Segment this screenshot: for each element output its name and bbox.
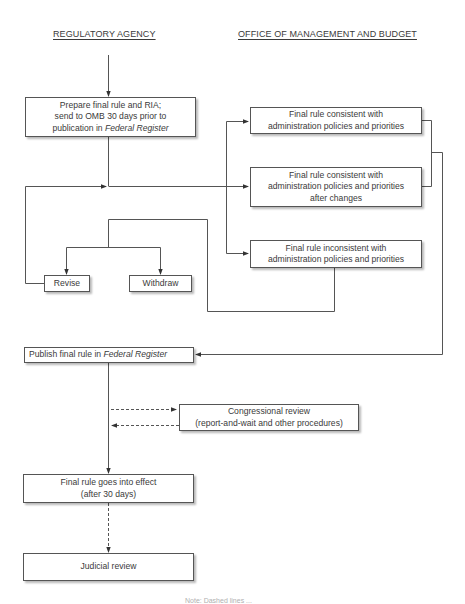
publish-italic: Federal Register xyxy=(104,349,168,359)
prepare-line-3: publication in Federal Register xyxy=(52,123,168,135)
consistent-after-line-1: Final rule consistent with xyxy=(289,170,383,182)
header-regulatory-agency: REGULATORY AGENCY xyxy=(53,29,156,39)
congressional-line-1: Congressional review xyxy=(228,406,310,418)
prepare-line-1: Prepare final rule and RIA; xyxy=(60,100,161,112)
box-revise: Revise xyxy=(44,275,90,292)
consistent-line-2: administration policies and priorities xyxy=(268,121,404,133)
effect-line-1: Final rule goes into effect xyxy=(61,477,157,489)
prepare-line-3-prefix: publication in xyxy=(52,123,105,133)
consistent-after-line-3: after changes xyxy=(310,193,362,205)
consistent-line-1: Final rule consistent with xyxy=(289,109,383,121)
revise-label: Revise xyxy=(54,278,80,290)
congressional-line-2: (report-and-wait and other procedures) xyxy=(195,418,343,430)
publish-label: Publish final rule in Federal Register xyxy=(29,349,167,361)
header-omb: OFFICE OF MANAGEMENT AND BUDGET xyxy=(238,29,417,39)
publish-prefix: Publish final rule in xyxy=(29,349,104,359)
prepare-line-3-italic: Federal Register xyxy=(105,123,169,133)
box-inconsistent: Final rule inconsistent with administrat… xyxy=(250,240,422,268)
inconsistent-line-2: administration policies and priorities xyxy=(268,254,404,266)
box-withdraw: Withdraw xyxy=(129,275,192,292)
effect-line-2: (after 30 days) xyxy=(81,489,136,501)
prepare-line-2: send to OMB 30 days prior to xyxy=(55,111,167,123)
box-congressional-review: Congressional review (report-and-wait an… xyxy=(179,404,359,431)
box-consistent: Final rule consistent with administratio… xyxy=(250,107,422,134)
inconsistent-line-1: Final rule inconsistent with xyxy=(286,243,387,255)
consistent-after-line-2: administration policies and priorities xyxy=(268,181,404,193)
box-final-rule-effect: Final rule goes into effect (after 30 da… xyxy=(23,474,194,503)
footnote: Note: Dashed lines ... xyxy=(185,597,252,604)
box-consistent-after-changes: Final rule consistent with administratio… xyxy=(250,167,422,207)
box-prepare-final-rule: Prepare final rule and RIA; send to OMB … xyxy=(25,97,196,137)
judicial-label: Judicial review xyxy=(81,561,137,573)
withdraw-label: Withdraw xyxy=(143,278,179,290)
box-judicial-review: Judicial review xyxy=(23,553,194,581)
box-publish: Publish final rule in Federal Register xyxy=(24,347,194,363)
